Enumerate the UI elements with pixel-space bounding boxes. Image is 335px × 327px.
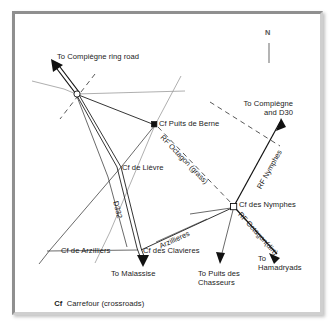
- destination-label-hamadryads: To Hamadryads: [258, 254, 302, 273]
- figure-root: N To Compiègne ring road Cf Puits de Ber…: [0, 0, 335, 327]
- node-label-de-lievre: Cf de Lièvre: [122, 163, 164, 172]
- legend-abbrev: Cf: [54, 299, 62, 308]
- map-frame: N To Compiègne ring road Cf Puits de Ber…: [12, 11, 323, 315]
- legend-text: Carrefour (crossroads): [67, 299, 144, 308]
- road-d332-right: [79, 95, 145, 259]
- road-to-compiegne-ring-road-b: [57, 63, 79, 92]
- node-marker-ring-junction: [74, 91, 80, 97]
- road-arzillieres-clavieres-to-nymphes: [141, 207, 234, 250]
- node-marker-des-nymphes: [231, 204, 237, 210]
- map-canvas: N To Compiègne ring road Cf Puits de Ber…: [15, 14, 320, 312]
- destination-label-malassise: To Malassise: [111, 269, 156, 278]
- arrowhead-compiegne-d30: [276, 118, 286, 131]
- road-berne-to-arzilliers: [39, 125, 155, 264]
- legend: Cf Carrefour (crossroads): [37, 290, 144, 312]
- arrowhead-malassise: [137, 255, 149, 267]
- destination-label-compiegne-and-d30: To Compiègne and D30: [215, 99, 293, 118]
- road-ring-to-lievre-alt: [76, 94, 127, 247]
- node-label-des-clavieres: Cf des Clavieres: [143, 246, 200, 255]
- node-label-puits-de-berne: Cf Puits de Berne: [159, 119, 219, 128]
- node-marker-puits-de-berne: [152, 122, 157, 127]
- destination-label-puits-des-chasseurs: To Puits des Chasseurs: [198, 269, 240, 288]
- destination-label-compiegne-ring-road: To Compiègne ring road: [57, 52, 139, 61]
- node-label-de-arzilliers: Cf de Arzilliers: [61, 246, 110, 255]
- road-pale-ring-to-arzilliers: [32, 81, 185, 94]
- compass-north-label: N: [265, 28, 270, 37]
- node-label-des-nymphes: Cf des Nymphes: [239, 200, 296, 209]
- road-nymphes-to-chasseurs: [221, 210, 233, 257]
- arrowhead-puits-des-chasseurs: [216, 252, 225, 264]
